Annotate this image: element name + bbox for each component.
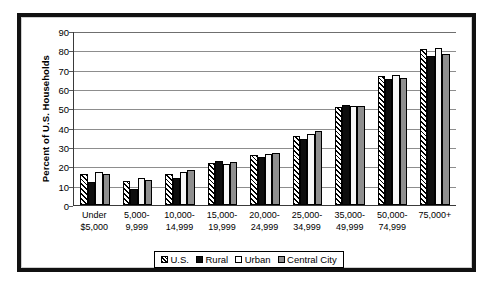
bar	[442, 54, 449, 205]
bar	[378, 76, 385, 205]
x-category-label-line: 5,000-	[116, 210, 159, 222]
legend-item[interactable]: Central City	[278, 254, 337, 265]
x-category-label: 50,000-74,999	[371, 210, 414, 244]
y-axis-tick-labels: 9080706050403020100	[49, 32, 69, 206]
bar	[215, 161, 222, 205]
bar	[300, 139, 307, 205]
x-category-label: 25,000-34,999	[286, 210, 329, 244]
x-category-label: 10,000-14,999	[158, 210, 201, 244]
x-category-label-line: 9,999	[116, 222, 159, 234]
y-tick-label: 60	[58, 85, 69, 96]
x-category-label-line: 49,999	[328, 222, 371, 234]
bar-group	[371, 32, 413, 205]
bar	[230, 162, 237, 205]
bar	[138, 178, 145, 205]
chart-outer-frame: Percent of U.S. Households 9080706050403…	[17, 13, 476, 272]
y-tick-label: 10	[58, 181, 69, 192]
y-tick-label: 20	[58, 162, 69, 173]
bar	[145, 180, 152, 205]
bar	[88, 182, 95, 205]
bar	[385, 79, 392, 205]
bar	[130, 189, 137, 205]
bar-group	[414, 32, 456, 205]
x-category-label-line: Under	[73, 210, 116, 222]
bar-group	[201, 32, 243, 205]
legend-label: U.S.	[171, 254, 189, 265]
bar	[315, 131, 322, 205]
bar	[307, 134, 314, 205]
y-tick-label: 30	[58, 143, 69, 154]
bar-group	[116, 32, 158, 205]
bar	[95, 172, 102, 205]
legend-swatch	[161, 256, 168, 263]
x-category-label-line: 25,000-	[286, 210, 329, 222]
bar-group	[159, 32, 201, 205]
plot-container: 9080706050403020100	[73, 32, 456, 206]
legend-item[interactable]: Rural	[196, 254, 228, 265]
legend-label: Urban	[245, 254, 271, 265]
y-tick-label: 70	[58, 65, 69, 76]
bar-groups	[74, 32, 456, 205]
bar	[293, 136, 300, 205]
bar	[123, 181, 130, 205]
x-category-label-line: 34,999	[286, 222, 329, 234]
bar	[350, 106, 357, 205]
bar-group	[286, 32, 328, 205]
x-category-label: 5,000-9,999	[116, 210, 159, 244]
x-category-label-line: 15,000-	[201, 210, 244, 222]
legend-item[interactable]: U.S.	[161, 254, 189, 265]
x-category-label-line: $5,000	[73, 222, 116, 234]
legend-label: Central City	[287, 254, 337, 265]
y-tick-label: 40	[58, 123, 69, 134]
screenshot-root: Percent of U.S. Households 9080706050403…	[0, 0, 494, 289]
x-category-label: Under$5,000	[73, 210, 116, 244]
bar	[208, 163, 215, 205]
legend-item[interactable]: Urban	[235, 254, 270, 265]
bar-group	[329, 32, 371, 205]
bar	[272, 153, 279, 205]
bar	[342, 105, 349, 205]
bar	[420, 49, 427, 205]
bar	[427, 56, 434, 205]
bar	[173, 178, 180, 205]
x-category-label: 75,000+	[414, 210, 457, 244]
y-tick-label: 80	[58, 46, 69, 57]
bar	[250, 155, 257, 205]
bar	[180, 172, 187, 205]
x-category-label-line: 50,000-	[371, 210, 414, 222]
bar	[265, 154, 272, 205]
x-category-label-line: 19,999	[201, 222, 244, 234]
x-axis-category-labels: Under$5,0005,000-9,99910,000-14,99915,00…	[73, 210, 456, 244]
bar	[187, 170, 194, 205]
bar-group	[74, 32, 116, 205]
y-tick-label: 90	[58, 27, 69, 38]
x-category-label-line: 24,999	[243, 222, 286, 234]
bar	[165, 174, 172, 205]
bar	[103, 174, 110, 205]
x-category-label-line: 74,999	[371, 222, 414, 234]
y-tick-label: 50	[58, 104, 69, 115]
x-category-label-line: 10,000-	[158, 210, 201, 222]
bar	[392, 75, 399, 206]
bar	[357, 106, 364, 205]
x-category-label: 35,000-49,999	[328, 210, 371, 244]
x-category-label-line: 75,000+	[414, 210, 457, 222]
x-category-label-line: 14,999	[158, 222, 201, 234]
y-tick-mark	[69, 206, 73, 207]
legend-swatch	[235, 256, 242, 263]
bar	[223, 164, 230, 205]
bar	[80, 174, 87, 205]
x-category-label-line: 35,000-	[328, 210, 371, 222]
legend-label: Rural	[205, 254, 228, 265]
bar	[258, 157, 265, 205]
bar	[400, 78, 407, 205]
bar	[435, 48, 442, 205]
x-category-label: 15,000-19,999	[201, 210, 244, 244]
chart-legend: U.S.RuralUrbanCentral City	[154, 251, 344, 268]
x-category-label: 20,000-24,999	[243, 210, 286, 244]
legend-swatch	[278, 256, 285, 263]
x-category-label-line: 20,000-	[243, 210, 286, 222]
bar	[335, 107, 342, 205]
legend-swatch	[196, 256, 203, 263]
plot-area	[73, 32, 456, 206]
